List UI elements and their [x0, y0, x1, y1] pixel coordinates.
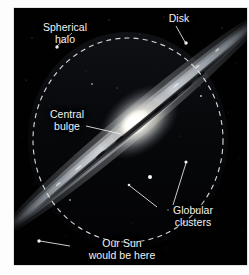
- label-globular-clusters-line1: Globular: [156, 205, 230, 217]
- label-central-bulge: Central bulge: [36, 109, 98, 132]
- label-globular-clusters-line2: clusters: [156, 217, 230, 229]
- label-our-sun: Our Sun would be here: [70, 238, 174, 261]
- label-disk-line1: Disk: [154, 13, 204, 25]
- label-globular-clusters: Globular clusters: [156, 205, 230, 228]
- galaxy-figure: European Southern Observatory: [0, 0, 249, 275]
- label-our-sun-line1: Our Sun: [70, 238, 174, 250]
- label-spherical-halo-line2: halo: [22, 34, 108, 46]
- label-central-bulge-line1: Central: [36, 109, 98, 121]
- label-spherical-halo-line1: Spherical: [22, 22, 108, 34]
- label-our-sun-line2: would be here: [70, 250, 174, 262]
- label-central-bulge-line2: bulge: [36, 121, 98, 133]
- label-disk: Disk: [154, 13, 204, 25]
- galaxy-photo: Spherical halo Disk Central bulge Globul…: [14, 8, 247, 265]
- label-spherical-halo: Spherical halo: [22, 22, 108, 45]
